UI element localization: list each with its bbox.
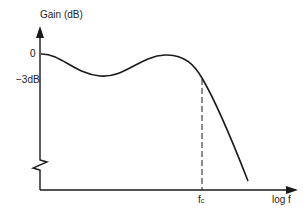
fc-subscript: c	[201, 197, 205, 204]
y-axis-label: Gain (dB)	[40, 10, 83, 20]
y-tick-0: 0	[30, 49, 36, 59]
x-axis-arrow-icon	[286, 186, 298, 194]
y-axis-arrow-icon	[36, 26, 44, 38]
y-tick-minus-3db: −3dB	[16, 75, 40, 85]
frequency-response-diagram	[0, 0, 305, 215]
cutoff-frequency-label: fc	[198, 195, 204, 205]
x-axis-label: log f	[272, 195, 291, 205]
gain-curve	[41, 54, 248, 181]
